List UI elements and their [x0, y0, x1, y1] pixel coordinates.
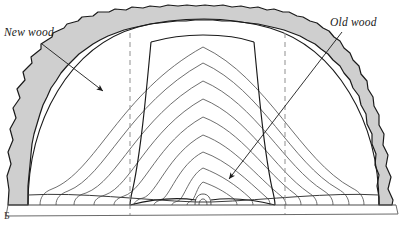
log-cross-section-svg [0, 0, 403, 227]
growth-ring-7 [154, 152, 270, 205]
pith [195, 194, 211, 205]
board-outline [130, 35, 275, 205]
label-old-wood: Old wood [330, 16, 377, 28]
label-new-wood: New wood [4, 26, 54, 38]
figure-canvas: New wood Old wood Б [0, 0, 403, 227]
baseline-right-cap [396, 205, 398, 214]
growth-rings [40, 47, 364, 205]
growth-ring-1 [40, 47, 364, 205]
baseline-bottom-rule [6, 214, 398, 216]
baseline [6, 205, 398, 216]
pith-ring-outer [195, 194, 211, 205]
board-top-edge [151, 35, 254, 42]
slab-chord [28, 194, 379, 202]
figure-caption: Б [4, 210, 10, 221]
